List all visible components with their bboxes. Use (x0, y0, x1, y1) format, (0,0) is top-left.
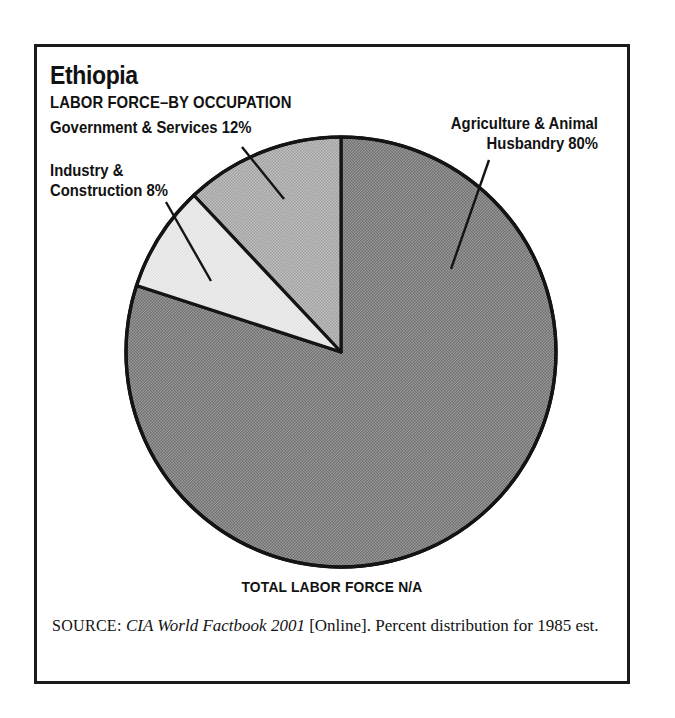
pie-chart (0, 0, 675, 718)
source-label: SOURCE: (52, 617, 122, 634)
figure-container: Ethiopia LABOR FORCE–BY OCCUPATION Gover… (0, 0, 675, 718)
source-note: SOURCE: CIA World Factbook 2001 [Online]… (52, 615, 612, 637)
source-publication-title: CIA World Factbook 2001 (126, 616, 305, 635)
total-labor-force-caption: TOTAL LABOR FORCE N/A (58, 578, 606, 595)
source-rest: [Online]. Percent distribution for 1985 … (305, 616, 599, 635)
